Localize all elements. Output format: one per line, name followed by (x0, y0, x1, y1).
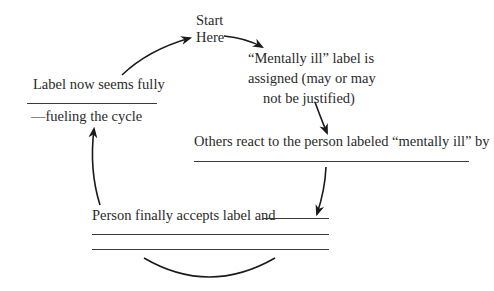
accepts-blank-inline (263, 218, 329, 219)
label-seems-continuation: —fueling the cycle (31, 106, 142, 126)
arrow-label-to-start (122, 38, 190, 75)
start-line-1: Start (196, 12, 224, 29)
assigned-line-3: not be justified) (248, 88, 370, 108)
bottom-arc (144, 258, 275, 277)
start-here-label: Start Here (196, 12, 224, 46)
assigned-line-1: “Mentally ill” label is (248, 48, 370, 68)
label-seems-blank-line (27, 103, 157, 104)
node-accepts: Person finally accepts label and (92, 205, 276, 225)
node-label-seems: Label now seems fully (33, 74, 165, 94)
node-assigned: “Mentally ill” label is assigned (may or… (248, 48, 370, 108)
node-others-react: Others react to the person labeled “ment… (194, 131, 490, 151)
assigned-line-2: assigned (may or may (248, 68, 370, 88)
others-react-blank-line (194, 161, 469, 162)
start-line-2: Here (196, 29, 224, 46)
arrow-others-to-accepts (317, 167, 326, 214)
accepts-blank-line-1 (92, 234, 329, 235)
arrow-accepts-to-label (92, 129, 100, 205)
arrow-start-to-assigned (224, 36, 262, 47)
accepts-blank-line-2 (92, 249, 329, 250)
